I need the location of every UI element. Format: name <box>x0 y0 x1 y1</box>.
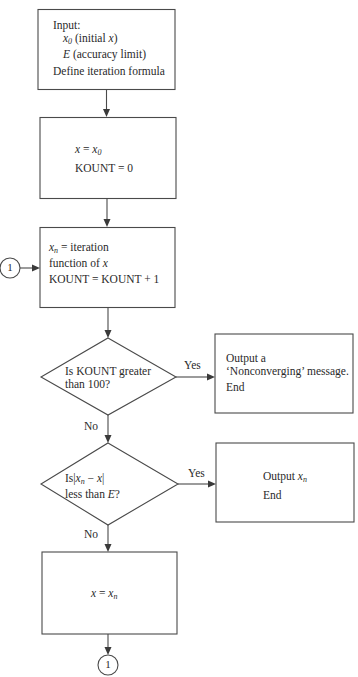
input-define-line: Define iteration formula <box>53 65 165 78</box>
init-box-text: x = x0 KOUNT = 0 <box>75 143 133 175</box>
arrowhead-icon <box>105 435 112 443</box>
init-x-line: x = x0 <box>75 143 133 159</box>
update-line1: x = xn <box>91 587 117 603</box>
decision-kount-text: Is KOUNT greater than 100? <box>65 365 151 391</box>
iterate-function-line: function of x <box>49 257 159 270</box>
input-label: Input: <box>53 19 165 32</box>
decision-kount-line1: Is KOUNT greater <box>65 365 151 378</box>
arrowhead-icon <box>104 219 111 227</box>
nonconverge-line2: ‘Nonconverging’ message. <box>226 365 349 378</box>
decision-accuracy-text: Is|xn − x| less than E? <box>65 472 120 501</box>
decision-accuracy-line1: Is|xn − x| <box>65 472 120 488</box>
arrowhead-icon <box>32 265 40 272</box>
decision-kount-line2: than 100? <box>65 378 151 391</box>
arrowhead-icon <box>207 374 215 381</box>
update-box-text: x = xn <box>91 587 117 603</box>
iterate-kount-line: KOUNT = KOUNT + 1 <box>49 273 159 286</box>
kount-no-label: No <box>84 420 98 432</box>
output-line1: Output xn <box>263 470 307 486</box>
iterate-xn-line: xn = iteration <box>49 241 159 257</box>
connector-out-label: 1 <box>98 658 118 670</box>
nonconverge-line1: Output a <box>226 352 349 365</box>
accuracy-no-label: No <box>84 528 98 540</box>
nonconverge-line3: End <box>226 381 349 394</box>
nonconverge-box-text: Output a ‘Nonconverging’ message. End <box>226 352 349 394</box>
iterate-box-text: xn = iteration function of x KOUNT = KOU… <box>49 241 159 286</box>
arrowhead-icon <box>103 109 110 117</box>
input-e-line: E (accuracy limit) <box>53 48 165 61</box>
accuracy-yes-label: Yes <box>188 467 205 479</box>
flowchart-canvas <box>0 0 358 677</box>
arrowhead-icon <box>208 481 216 488</box>
output-box-text: Output xn End <box>263 470 307 502</box>
arrowhead-icon <box>105 647 112 655</box>
arrowhead-icon <box>105 544 112 552</box>
kount-yes-label: Yes <box>184 359 201 371</box>
connector-in-label: 1 <box>0 261 20 273</box>
decision-accuracy-line2: less than E? <box>65 488 120 501</box>
init-kount-line: KOUNT = 0 <box>75 162 133 175</box>
input-x0-line: x0 (initial x) <box>53 32 165 48</box>
input-box-text: Input: x0 (initial x) E (accuracy limit)… <box>53 19 165 78</box>
output-line2: End <box>263 489 307 502</box>
arrowhead-icon <box>105 330 112 338</box>
